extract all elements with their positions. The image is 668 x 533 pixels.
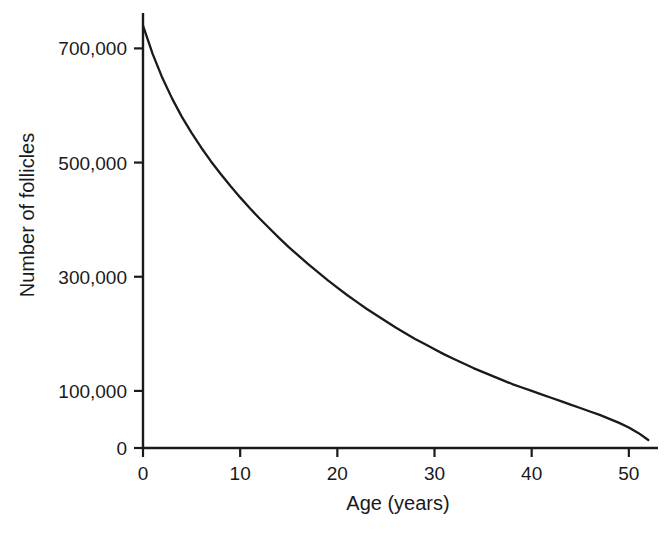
y-axis-label: Number of follicles xyxy=(12,5,42,425)
data-series-line xyxy=(143,26,648,440)
x-tick-label: 30 xyxy=(424,464,445,483)
y-ticks-group xyxy=(134,48,143,448)
x-ticks-group xyxy=(143,448,629,457)
axes-group xyxy=(143,13,658,448)
x-tick-label: 20 xyxy=(327,464,348,483)
x-tick-label: 0 xyxy=(138,464,149,483)
x-tick-label: 40 xyxy=(521,464,542,483)
chart-figure: 0100,000300,000500,000700,000 0102030405… xyxy=(0,0,668,533)
x-axis-label: Age (years) xyxy=(143,492,653,515)
y-tick-label: 0 xyxy=(0,439,127,458)
x-tick-label: 50 xyxy=(618,464,639,483)
x-tick-label: 10 xyxy=(230,464,251,483)
